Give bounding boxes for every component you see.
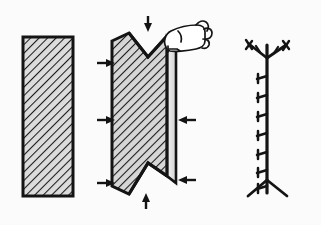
panel-flat-plate <box>23 37 73 196</box>
flat-plate-hatch-fill <box>23 37 73 196</box>
technical-illustration: Plate forming sequence: flat plate, comp… <box>0 0 321 225</box>
illustration-canvas <box>0 0 321 225</box>
